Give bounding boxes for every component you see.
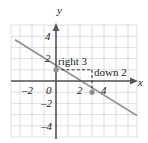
point-second xyxy=(89,90,94,95)
ytick-label-4: 4 xyxy=(45,30,51,42)
ytick-label-2: 2 xyxy=(45,52,51,64)
y-axis-label: y xyxy=(57,4,62,16)
point-y-intercept xyxy=(53,67,58,72)
xtick-label-neg2: –2 xyxy=(22,84,33,96)
graph-figure: y x –2 0 2 4 4 2 –2 –4 right 3 down 2 xyxy=(0,0,148,143)
annotation-right-3: right 3 xyxy=(58,55,87,67)
xtick-label-0: 0 xyxy=(46,84,52,96)
xtick-label-4: 4 xyxy=(101,84,107,96)
ytick-label-neg2: –2 xyxy=(41,97,52,109)
ytick-label-neg4: –4 xyxy=(41,120,52,132)
xtick-label-2: 2 xyxy=(77,84,83,96)
annotation-down-2: down 2 xyxy=(94,66,127,78)
x-axis-label: x xyxy=(138,76,143,88)
